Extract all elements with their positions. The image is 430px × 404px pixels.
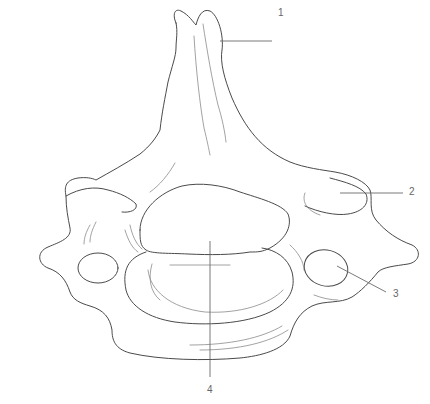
body-rim: [148, 270, 283, 312]
label-2: 2: [409, 187, 415, 197]
right-transverse-foramen: [300, 245, 352, 291]
label-4: 4: [207, 385, 213, 395]
vertebra-diagram: [0, 0, 430, 404]
left-transverse-foramen: [78, 253, 118, 283]
shading: [84, 225, 90, 244]
shading: [150, 163, 175, 192]
shading: [314, 295, 338, 300]
shading: [125, 230, 138, 252]
shading: [290, 245, 304, 270]
left-facet-outline: [66, 188, 136, 212]
label-1: 1: [278, 8, 284, 18]
vertebral-foramen: [140, 184, 289, 254]
right-facet-outline: [305, 178, 367, 215]
right-facet-inner: [304, 193, 320, 215]
body-lower-lines: [190, 326, 282, 345]
vertebra-outline: [40, 10, 419, 359]
label-3: 3: [393, 289, 399, 299]
shading: [90, 222, 96, 242]
